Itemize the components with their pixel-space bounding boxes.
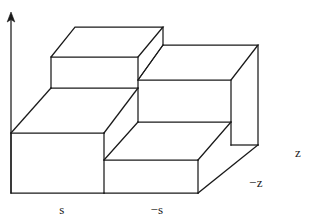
figure-root: s −s z −z	[0, 0, 314, 223]
upper-block-front-face	[51, 57, 138, 88]
left-slab-top-face	[11, 88, 138, 133]
right-slab-front-face	[104, 160, 198, 193]
left-slab-front-face	[11, 133, 104, 193]
step-surface-diagram: s −s z −z	[0, 0, 314, 223]
axis-label-minus-z: −z	[249, 175, 263, 190]
axis-label-minus-s: −s	[150, 202, 163, 217]
axis-label-z: z	[295, 145, 301, 160]
axis-label-s: s	[59, 202, 64, 217]
